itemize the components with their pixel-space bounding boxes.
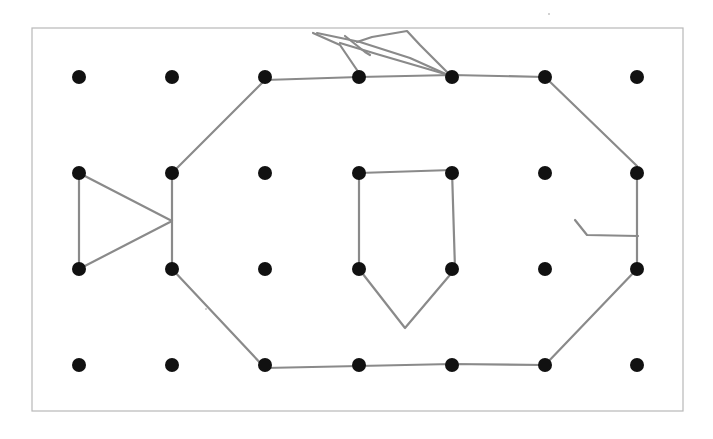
fish-fin	[359, 170, 455, 328]
page-frame	[32, 28, 683, 411]
dorsal-fin-stroke	[313, 33, 359, 73]
grid-dot	[258, 358, 272, 372]
grid-dot	[538, 358, 552, 372]
grid-dot	[445, 358, 459, 372]
fish-body-outline	[172, 75, 637, 368]
dot-grid-drawing	[0, 0, 713, 439]
grid-dot	[445, 70, 459, 84]
grid-dot	[72, 70, 86, 84]
grid-dot	[258, 70, 272, 84]
grid-dot	[630, 166, 644, 180]
grid-dot	[630, 70, 644, 84]
grid-dot	[538, 166, 552, 180]
grid-dot	[630, 358, 644, 372]
grid-dot	[538, 70, 552, 84]
speck	[548, 13, 550, 15]
grid-dot	[352, 358, 366, 372]
grid-dot	[538, 262, 552, 276]
grid-dot	[165, 166, 179, 180]
grid-dot	[165, 70, 179, 84]
grid-dot	[445, 166, 459, 180]
grid-dot	[165, 358, 179, 372]
grid-dot	[72, 358, 86, 372]
fish-tail	[79, 173, 172, 269]
grid-dot	[72, 262, 86, 276]
specks	[205, 13, 550, 310]
grid-dot	[258, 166, 272, 180]
grid-dot	[352, 166, 366, 180]
grid-dot	[445, 262, 459, 276]
grid-dot	[72, 166, 86, 180]
grid-dot	[630, 262, 644, 276]
grid-dot	[352, 262, 366, 276]
grid-dot	[165, 262, 179, 276]
grid-dot	[352, 70, 366, 84]
fish-mouth	[575, 220, 638, 236]
grid-dot	[258, 262, 272, 276]
speck	[205, 308, 207, 310]
